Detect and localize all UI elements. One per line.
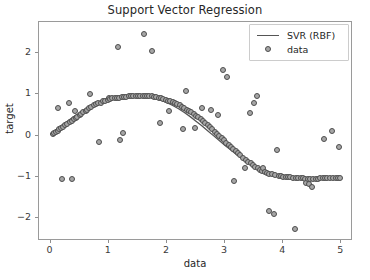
data-point (292, 226, 298, 232)
data-point (192, 125, 198, 131)
legend-line-icon (255, 35, 281, 36)
x-tick-label: 4 (270, 244, 294, 255)
x-tick-label: 5 (328, 244, 352, 255)
x-tick-label: 3 (212, 244, 236, 255)
data-point (336, 144, 342, 150)
data-point (329, 128, 335, 134)
data-point (120, 130, 126, 136)
data-point (321, 136, 327, 142)
data-point (117, 137, 123, 143)
data-point (157, 120, 163, 126)
x-tick-mark (282, 240, 283, 243)
data-point (247, 110, 253, 116)
data-point (215, 112, 221, 118)
data-point (254, 93, 260, 99)
data-point (59, 176, 65, 182)
chart-title: Support Vector Regression (0, 3, 370, 17)
svr-chart-figure: Support Vector Regression 012345 −2−1012… (0, 0, 370, 280)
x-tick-label: 1 (96, 244, 120, 255)
data-point (149, 48, 155, 54)
data-point (251, 100, 257, 106)
data-point (55, 105, 61, 111)
y-tick-mark (35, 176, 38, 177)
x-tick-mark (224, 240, 225, 243)
data-point (274, 147, 280, 153)
x-tick-mark (340, 240, 341, 243)
x-tick-mark (166, 240, 167, 243)
legend-marker-icon (255, 46, 281, 52)
data-point (199, 105, 205, 111)
y-tick-label: 2 (4, 46, 31, 57)
y-tick-label: −2 (4, 211, 31, 222)
data-point (166, 108, 172, 114)
data-point (141, 31, 147, 37)
y-axis-label: target (4, 89, 15, 149)
data-point (180, 126, 186, 132)
data-point (224, 74, 230, 80)
data-point (309, 184, 315, 190)
data-point (220, 67, 226, 73)
x-axis-label: data (38, 258, 352, 269)
legend-label-svr: SVR (RBF) (281, 30, 335, 41)
y-tick-label: −1 (4, 170, 31, 181)
x-tick-mark (50, 240, 51, 243)
data-point (66, 100, 72, 106)
legend-item-svr: SVR (RBF) (255, 28, 343, 42)
y-tick-mark (35, 52, 38, 53)
data-point (87, 91, 93, 97)
data-point (208, 107, 214, 113)
data-point (242, 165, 248, 171)
data-point (183, 88, 189, 94)
legend-item-data: data (255, 42, 343, 56)
data-point (231, 178, 237, 184)
y-tick-mark (35, 135, 38, 136)
data-point (115, 44, 121, 50)
x-tick-mark (108, 240, 109, 243)
y-tick-mark (35, 93, 38, 94)
x-tick-label: 2 (154, 244, 178, 255)
data-point (271, 211, 277, 217)
data-point (69, 176, 75, 182)
y-tick-mark (35, 217, 38, 218)
chart-legend: SVR (RBF) data (249, 24, 349, 61)
data-point (337, 175, 343, 181)
data-point (96, 139, 102, 145)
x-tick-label: 0 (38, 244, 62, 255)
legend-label-data: data (281, 44, 308, 55)
